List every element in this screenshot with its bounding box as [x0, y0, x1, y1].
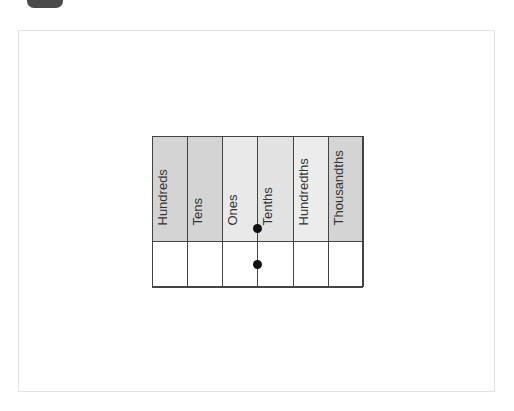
grid-line [187, 136, 189, 287]
grid-line [152, 241, 363, 243]
grid-line [293, 136, 295, 287]
column-label: Ones [225, 194, 240, 225]
header-cell: Tenths [257, 136, 293, 242]
grid-line [152, 136, 154, 287]
column-label: Hundreds [155, 169, 170, 225]
grid-line [328, 136, 330, 287]
place-value-chart: Hundreds Tens Ones Tenths Hundredths Tho… [152, 136, 363, 287]
header-cell: Tens [187, 136, 222, 242]
column-tenths: Tenths [257, 136, 293, 287]
column-label: Thousandths [331, 150, 346, 225]
grid-line [362, 136, 364, 287]
decimal-point-dot-icon [253, 260, 262, 269]
column-hundreds: Hundreds [152, 136, 187, 287]
header-cell: Hundreds [152, 136, 187, 242]
grid-line [152, 136, 363, 138]
column-label: Hundredths [296, 158, 311, 225]
grid-line [222, 136, 224, 287]
top-tab [27, 0, 63, 8]
column-ones: Ones [222, 136, 257, 287]
column-label: Tens [190, 198, 205, 225]
header-cell: Thousandths [328, 136, 363, 242]
header-cell: Ones [222, 136, 257, 242]
column-tens: Tens [187, 136, 222, 287]
column-hundredths: Hundredths [293, 136, 328, 287]
grid-line [152, 286, 363, 288]
column-label: Tenths [260, 187, 275, 225]
decimal-point-dot-icon [253, 224, 262, 233]
header-cell: Hundredths [293, 136, 328, 242]
column-thousandths: Thousandths [328, 136, 363, 287]
